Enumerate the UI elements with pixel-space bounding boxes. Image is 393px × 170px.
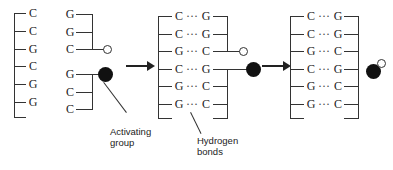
duplex-rung-right [213,34,228,35]
duplex-base-right: C [332,45,344,57]
fragment-rung [76,92,93,93]
hydrogen-bond-glyph: ··· [316,28,332,40]
template-base: G [27,96,39,108]
template-rung [14,66,26,67]
duplex-rung-left [158,86,172,87]
duplex-rung-left [158,51,172,52]
duplex-base-right: C [332,98,344,110]
duplex-base-right: G [200,10,212,22]
hydrogen-bond-glyph: ··· [316,10,332,22]
open-circle-icon [239,47,248,56]
duplex-base-right: C [200,45,212,57]
hydrogen-bond-glyph: ··· [316,98,332,110]
duplex-rung-right [213,69,248,70]
hydrogen-bond-glyph: ··· [184,28,200,40]
duplex-rung-left [158,104,172,105]
fragment-base: C [64,43,76,55]
fragment-base: G [64,26,76,38]
hydrogen-bond-glyph: ··· [184,63,200,75]
fragment-base: G [64,68,76,80]
hydrogen-bond-glyph: ··· [184,10,200,22]
template-rung [14,84,26,85]
template-base: G [27,78,39,90]
hydrogen-bonds-label-2: bonds [197,147,223,158]
duplex-base-right: G [332,28,344,40]
duplex-rung-left [290,34,304,35]
duplex-rung-right [344,16,359,17]
duplex-foot-right [213,118,228,119]
duplex-rung-left [290,51,304,52]
fragment-backbone [92,74,93,110]
fragment-base: G [64,8,76,20]
activating-group-label-2: group [110,138,134,149]
duplex-rung-right [344,104,359,105]
template-base: C [27,25,39,37]
duplex-rung-left [290,86,304,87]
template-foot [14,117,26,118]
open-circle-icon [103,45,112,54]
filled-circle-icon [98,67,113,82]
fragment-backbone [92,14,93,50]
template-rung [14,31,26,32]
duplex-rung-right [213,51,240,52]
fragment-rung [76,32,93,33]
template-rung [14,102,26,103]
duplex-rung-left [290,104,304,105]
fragment-base: C [64,103,76,115]
hydrogen-bond-glyph: ··· [316,45,332,57]
activating-group-label: Activating [110,127,151,138]
duplex-base-right: C [200,98,212,110]
open-circle-icon [377,59,386,68]
duplex-rung-right [344,69,359,70]
template-base: G [27,43,39,55]
hydrogen-bond-glyph: ··· [184,98,200,110]
hydrogen-bond-glyph: ··· [316,80,332,92]
duplex-base-right: C [200,80,212,92]
hydrogen-bond-glyph: ··· [184,80,200,92]
hydrogen-bonds-leader [190,112,201,134]
fragment-rung [76,14,93,15]
fragment-rung [76,109,93,110]
template-base: C [27,60,39,72]
duplex-base-right: G [200,28,212,40]
duplex-foot-left [290,118,304,119]
duplex-rung-left [158,16,172,17]
filled-circle-icon [246,62,261,77]
hydrogen-bonds-label: Hydrogen [197,136,238,147]
duplex-rung-left [290,16,304,17]
duplex-base-right: C [332,80,344,92]
fragment-rung [76,49,93,50]
template-base: C [27,7,39,19]
duplex-foot-right [344,118,359,119]
template-rung [14,49,26,50]
duplex-base-right: G [200,63,212,75]
duplex-rung-right [344,34,359,35]
duplex-rung-right [213,16,228,17]
hydrogen-bond-glyph: ··· [316,63,332,75]
activating-group-leader [103,82,127,113]
template-rung [14,13,26,14]
hydrogen-bond-glyph: ··· [184,45,200,57]
fragment-base: C [64,86,76,98]
duplex-rung-right [213,86,228,87]
duplex-right-backbone-bottom [227,69,228,119]
duplex-rung-right [213,104,228,105]
duplex-rung-right [344,51,359,52]
duplex-rung-left [290,69,304,70]
duplex-rung-left [158,69,172,70]
duplex-base-right: G [332,63,344,75]
duplex-rung-left [158,34,172,35]
duplex-foot-left [158,118,172,119]
duplex-base-right: G [332,10,344,22]
duplex-rung-right [344,86,359,87]
figure-canvas: C C G C G G G G C G C C [0,0,393,170]
